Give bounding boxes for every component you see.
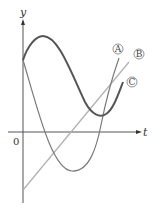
svg-text:A: A xyxy=(114,44,122,54)
y-axis-arrow-icon xyxy=(21,19,25,25)
y-axis-label: y xyxy=(19,6,27,19)
svg-text:B: B xyxy=(136,49,143,59)
label-b: B xyxy=(134,49,144,59)
t-axis-label: t xyxy=(143,126,148,139)
label-a: A xyxy=(113,44,123,54)
curve-c xyxy=(23,36,123,116)
origin-label: 0 xyxy=(13,136,19,147)
label-c: C xyxy=(127,77,137,87)
t-axis-arrow-icon xyxy=(136,130,142,134)
graph: y t 0 A B C xyxy=(0,0,167,211)
svg-text:C: C xyxy=(129,77,136,87)
